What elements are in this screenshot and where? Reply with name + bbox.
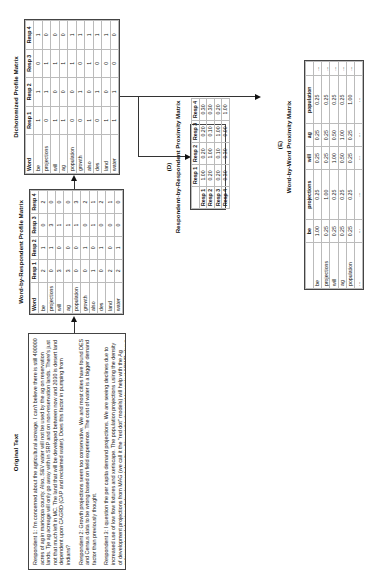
table-row: ag0.250.250.501.000.25... [338, 62, 346, 289]
table-cell: 1 [42, 49, 50, 78]
table-cell: 1 [51, 106, 59, 135]
table-cell: 1 [93, 78, 101, 107]
row-label: also [85, 135, 93, 174]
table-row: will3010 [56, 191, 64, 314]
table-cell: 0 [68, 106, 76, 135]
column-header: Word [31, 282, 39, 313]
table-cell: 0 [110, 21, 118, 50]
table-cell: ... [354, 76, 362, 124]
table-cell: 0 [114, 213, 122, 236]
column-header: Resp 3 [192, 120, 200, 142]
table-cell: 1 [114, 236, 122, 259]
column-header [192, 186, 200, 208]
table-cell: 1 [34, 106, 42, 135]
table-cell: ... [354, 220, 362, 243]
table-cell: 1 [106, 191, 114, 214]
column-header: ag [306, 124, 314, 147]
table-cell: 0 [102, 78, 110, 107]
table-cell: 0.25 [346, 147, 354, 170]
column-header [306, 243, 314, 289]
row-label: growth [76, 135, 84, 174]
table-cell: 1 [93, 21, 101, 50]
table-cell: 0 [42, 106, 50, 135]
row-label: projections [322, 243, 330, 289]
table-cell: 2 [114, 259, 122, 282]
table-header-row: Resp 1 Resp 2 Resp 3 Resp 4 [192, 98, 200, 208]
table-cell: 0.25 [322, 220, 330, 243]
table-cell: 0.25 [338, 220, 346, 243]
table-cell: 0 [47, 259, 55, 282]
arrow-right-icon [71, 316, 77, 322]
connector-line [74, 321, 75, 333]
table-row: growth0102 [81, 191, 89, 314]
table-cell: 1 [72, 213, 80, 236]
table-cell: 0.10 [207, 120, 215, 142]
table-cell: 0 [68, 78, 76, 107]
dich-body: be1101projections0110will1010ag1010popul… [34, 21, 119, 174]
table-cell: 0 [106, 236, 114, 259]
table-row: growth0101 [76, 21, 84, 174]
diagram-canvas: Original Text Respondent 1: I'm concerne… [0, 0, 379, 577]
table-cell: 2 [39, 191, 47, 214]
table-row: be1101 [34, 21, 42, 174]
table-cell: 1 [56, 213, 64, 236]
row-label: will [56, 282, 64, 313]
table-row: Resp 20.201.000.100.30 [207, 98, 215, 208]
table-cell: 0.25 [330, 76, 338, 124]
table-cell: 0 [59, 78, 67, 107]
table-cell: 0 [72, 259, 80, 282]
row-label: projections [47, 282, 55, 313]
table-cell: 1 [59, 49, 67, 78]
table-cell: 2 [97, 191, 105, 214]
table-cell: 2 [106, 259, 114, 282]
table-cell: 3 [72, 191, 80, 214]
table-cell: 3 [47, 213, 55, 236]
column-header: Resp 2 [31, 236, 39, 259]
word-by-respondent-matrix: Word Resp 1 Resp 2 Resp 3 Resp 4 be2102p… [29, 189, 124, 315]
table-row: be1.000.250.250.250.25... [314, 62, 322, 289]
table-row: land1001 [102, 21, 110, 174]
table-row: projections0110 [42, 21, 50, 174]
row-label: water [110, 135, 118, 174]
table-cell: 1.00 [199, 164, 207, 186]
matrix-d-label: (D) [165, 124, 172, 210]
respondent-3-text: Respondent 3: I question the per capita … [103, 338, 126, 565]
table-cell: 1 [76, 21, 84, 50]
table-cell: 1 [59, 106, 67, 135]
table-cell: 0 [81, 259, 89, 282]
table-cell: 0 [64, 236, 72, 259]
column-header: will [306, 147, 314, 170]
table-cell: 1 [110, 78, 118, 107]
table-row: will1010 [51, 21, 59, 174]
table-row: population0011 [68, 21, 76, 174]
table-cell: 0 [76, 106, 84, 135]
word-by-respondent-title: Word-by-Respondent Profile Matrix [17, 189, 24, 315]
row-label: be [39, 282, 47, 313]
arrow-right-icon [71, 175, 77, 181]
row-label: ag [59, 135, 67, 174]
table-cell: 1 [34, 78, 42, 107]
table-cell: 1 [47, 236, 55, 259]
row-label: population [72, 282, 80, 313]
table-row: ag1010 [59, 21, 67, 174]
table-cell: 0 [64, 191, 72, 214]
table-cell: 0.30 [222, 142, 230, 164]
column-header: population [306, 76, 314, 124]
table-cell: 0 [106, 213, 114, 236]
table-cell: 1 [81, 236, 89, 259]
row-label: ag [338, 243, 346, 289]
wp-body: be1.000.250.250.250.25...projections0.25… [314, 62, 363, 289]
table-cell: 0 [102, 49, 110, 78]
table-cell: 0 [56, 191, 64, 214]
row-label: land [106, 282, 114, 313]
row-label: will [51, 135, 59, 174]
matrix-e-label: (E) [276, 115, 283, 175]
column-header: Resp 1 [31, 259, 39, 282]
table-cell: 0.25 [338, 170, 346, 220]
table-cell: 0.30 [199, 98, 207, 120]
table-cell: 1 [64, 213, 72, 236]
table-cell: 1 [110, 106, 118, 135]
table-cell: ... [346, 62, 354, 76]
column-header: Resp 2 [26, 78, 34, 107]
table-cell: 0.25 [314, 147, 322, 170]
